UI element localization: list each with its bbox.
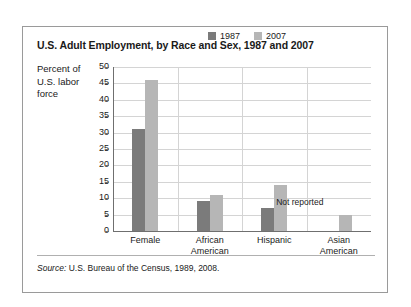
- source-note: Source: U.S. Bureau of the Census, 1989,…: [37, 263, 219, 273]
- legend-swatch-1987-icon: [208, 32, 216, 40]
- y-axis-tick-label: 35: [79, 110, 109, 120]
- legend-item-2007: 2007: [254, 31, 286, 41]
- bar-1987-african-american: [197, 201, 210, 231]
- y-axis-tickmark: [105, 67, 109, 68]
- source-text: U.S. Bureau of the Census, 1989, 2008.: [66, 263, 219, 273]
- legend-swatch-2007-icon: [254, 32, 262, 40]
- not-reported-annotation: Not reported: [274, 197, 326, 207]
- y-axis-tickmark: [105, 165, 109, 166]
- y-axis-tickmark: [105, 116, 109, 117]
- source-label: Source:: [37, 263, 66, 273]
- y-axis-tick-label: 40: [79, 94, 109, 104]
- y-axis-tickmark: [105, 182, 109, 183]
- plot-area: FemaleAfricanAmericanHispanicAsianAmeric…: [113, 67, 371, 231]
- y-axis-tick-label: 10: [79, 192, 109, 202]
- figure-frame: U.S. Adult Employment, by Race and Sex, …: [22, 26, 388, 293]
- source-divider: [37, 255, 375, 256]
- bar-2007-female: [145, 80, 158, 231]
- legend-item-1987: 1987: [208, 31, 240, 41]
- y-axis-tickmark: [105, 231, 109, 232]
- y-axis-tick-label: 20: [79, 159, 109, 169]
- y-axis-tick-label: 0: [79, 225, 109, 235]
- bar-2007-asian-american: [339, 215, 352, 231]
- y-axis-tick-label: 15: [79, 176, 109, 186]
- category-separator: [178, 67, 179, 231]
- bar-2007-african-american: [210, 195, 223, 231]
- chart-legend: 1987 2007: [208, 31, 286, 41]
- bar-2007-hispanic: [274, 185, 287, 231]
- y-axis-tick-label: 25: [79, 143, 109, 153]
- bar-1987-female: [132, 129, 145, 231]
- y-axis-tick-label: 30: [79, 127, 109, 137]
- category-separator: [242, 67, 243, 231]
- x-axis-label-asian-american: AsianAmerican: [299, 235, 379, 257]
- legend-label-1987: 1987: [220, 31, 240, 41]
- y-axis-tick-label: 50: [79, 61, 109, 71]
- y-axis-tick-labels: 05101520253035404550: [75, 67, 109, 237]
- y-axis-tickmark: [105, 83, 109, 84]
- y-axis-tickmark: [105, 215, 109, 216]
- y-axis-tick-label: 45: [79, 77, 109, 87]
- legend-label-2007: 2007: [266, 31, 286, 41]
- bar-1987-hispanic: [261, 208, 274, 231]
- y-axis-tickmark: [105, 100, 109, 101]
- y-axis-tickmark: [105, 133, 109, 134]
- y-axis-tickmark: [105, 198, 109, 199]
- y-axis-tickmark: [105, 149, 109, 150]
- y-axis-tick-label: 5: [79, 209, 109, 219]
- x-axis-line: [113, 231, 371, 232]
